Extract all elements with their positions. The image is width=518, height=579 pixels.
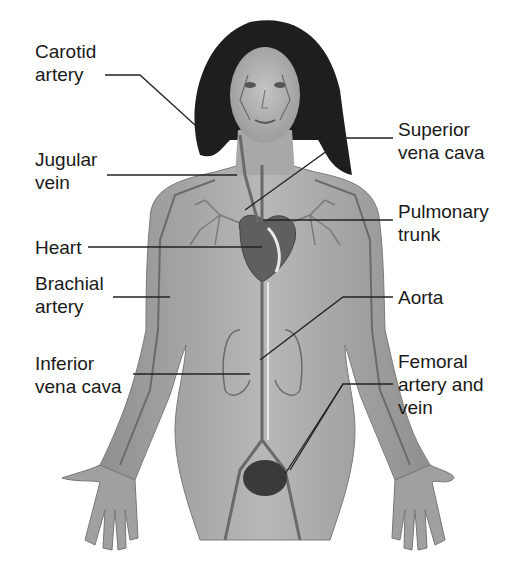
label-line: Aorta (398, 286, 443, 309)
circulatory-system-diagram: Carotid artery Jugular vein Heart Brachi… (0, 0, 518, 579)
label-superior-vena-cava: Superior vena cava (398, 118, 485, 164)
label-line: trunk (398, 223, 489, 246)
label-brachial-artery: Brachial artery (35, 272, 104, 318)
label-inferior-vena-cava: Inferior vena cava (35, 352, 122, 398)
label-pulmonary-trunk: Pulmonary trunk (398, 200, 489, 246)
label-heart: Heart (35, 236, 81, 259)
right-hand (392, 465, 454, 550)
label-jugular-vein: Jugular vein (35, 148, 97, 194)
label-line: vena cava (35, 375, 122, 398)
label-carotid-artery: Carotid artery (35, 40, 96, 86)
label-line: vein (35, 171, 97, 194)
face (230, 47, 300, 143)
label-line: Femoral (398, 350, 484, 373)
label-line: artery (35, 295, 104, 318)
label-line: Pulmonary (398, 200, 489, 223)
label-line: Carotid (35, 40, 96, 63)
label-line: vein (398, 396, 484, 419)
label-line: Heart (35, 236, 81, 259)
label-aorta: Aorta (398, 286, 443, 309)
label-line: Brachial (35, 272, 104, 295)
label-femoral-artery-and-vein: Femoral artery and vein (398, 350, 484, 419)
label-line: artery (35, 63, 96, 86)
label-line: Jugular (35, 148, 97, 171)
label-line: Superior (398, 118, 485, 141)
leader-carotid-artery (105, 75, 195, 125)
label-line: vena cava (398, 141, 485, 164)
label-line: artery and (398, 373, 484, 396)
left-hand (62, 465, 138, 550)
label-line: Inferior (35, 352, 122, 375)
